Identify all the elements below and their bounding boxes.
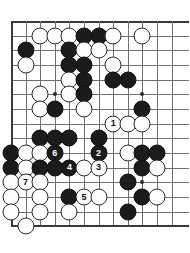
stone-black: [119, 71, 136, 88]
stone-white: [90, 42, 107, 59]
stone-white: [134, 27, 151, 44]
stone-black: [46, 101, 63, 118]
star-point: [140, 180, 144, 184]
stone-white-move-3: 3: [90, 159, 107, 176]
stone-white: [90, 189, 107, 206]
board-stones: 1624375: [0, 0, 190, 253]
move-number-label: 4: [67, 163, 72, 172]
stone-white: [105, 27, 122, 44]
stone-white: [17, 218, 34, 235]
move-number-label: 6: [52, 148, 57, 157]
move-number-label: 7: [23, 178, 28, 187]
stone-black: [119, 203, 136, 220]
stone-black: [61, 130, 78, 147]
go-board-diagram: 1624375: [0, 0, 190, 253]
move-number-label: 2: [96, 148, 101, 157]
stone-white: [32, 203, 49, 220]
stone-white: [149, 159, 166, 176]
move-number-label: 1: [111, 119, 116, 128]
move-number-label: 5: [81, 192, 86, 201]
stone-white: [134, 115, 151, 132]
star-point: [140, 92, 144, 96]
star-point: [53, 92, 57, 96]
stone-white: [61, 203, 78, 220]
stone-white: [76, 101, 93, 118]
stone-white: [3, 203, 20, 220]
stone-black: [119, 174, 136, 191]
stone-white: [149, 189, 166, 206]
move-number-label: 3: [96, 163, 101, 172]
stone-white: [17, 57, 34, 74]
